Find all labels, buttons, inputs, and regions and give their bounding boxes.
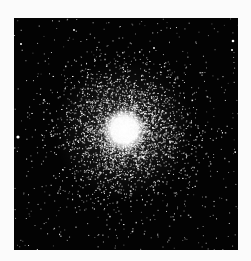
globular-cluster-photo	[14, 18, 238, 250]
star-field	[14, 18, 238, 250]
